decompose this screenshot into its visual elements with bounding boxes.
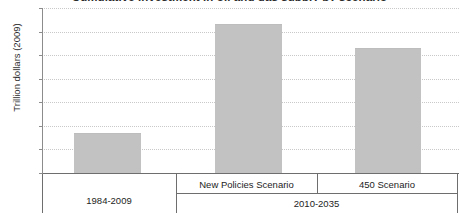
gridline bbox=[42, 8, 459, 9]
bar-new-policies-scenario bbox=[215, 24, 282, 174]
category-axis: 1984-2009 New Policies Scenario 450 Scen… bbox=[0, 174, 459, 213]
y-tick-mark bbox=[39, 149, 43, 150]
y-tick-mark bbox=[39, 126, 43, 127]
chart-title: Cumulative investment in oil and gas sup… bbox=[0, 0, 459, 1]
category-label-new-policies-scenario: New Policies Scenario bbox=[176, 180, 317, 190]
y-tick-mark bbox=[39, 8, 43, 9]
bar-chart: Cumulative investment in oil and gas sup… bbox=[0, 0, 459, 213]
category-axis-right-edge bbox=[457, 174, 458, 213]
category-axis-left-edge bbox=[42, 174, 43, 213]
category-label-450-scenario: 450 Scenario bbox=[317, 180, 457, 190]
y-axis-title: Trillion dollars (2009) bbox=[11, 8, 22, 128]
y-tick-mark bbox=[39, 79, 43, 80]
category-group-rule bbox=[176, 193, 457, 194]
category-group-label-2010-2035: 2010-2035 bbox=[176, 199, 457, 209]
y-tick-mark bbox=[39, 55, 43, 56]
y-tick-mark bbox=[39, 32, 43, 33]
category-label-1984-2009: 1984-2009 bbox=[42, 196, 176, 206]
plot-area bbox=[42, 8, 459, 173]
bar-1984-2009 bbox=[74, 133, 141, 173]
y-tick-mark bbox=[39, 102, 43, 103]
bar-450-scenario bbox=[355, 48, 421, 173]
